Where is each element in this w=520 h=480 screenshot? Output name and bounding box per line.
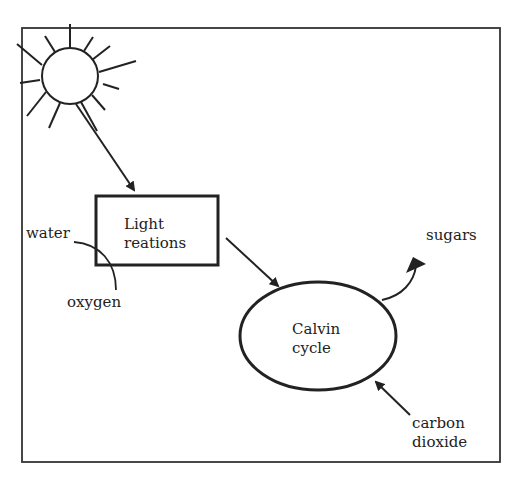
oxygen-label: oxygen bbox=[67, 293, 121, 312]
sun-icon bbox=[17, 24, 136, 131]
light-reactions-label-line1: Light bbox=[124, 215, 164, 234]
sugars-label: sugars bbox=[426, 226, 477, 245]
water-label: water bbox=[26, 224, 70, 243]
calvin-to-sugars-arrow bbox=[382, 266, 416, 300]
light-reactions-label-line2: reations bbox=[124, 234, 186, 253]
carbon-dioxide-label-line1: carbon bbox=[412, 414, 465, 433]
sun-to-light-arrow bbox=[76, 104, 134, 190]
co2-to-calvin-arrow bbox=[376, 382, 410, 415]
carbon-dioxide-label-line2: dioxide bbox=[412, 433, 467, 452]
frame-border bbox=[22, 28, 500, 462]
calvin-cycle-label-line1: Calvin bbox=[292, 320, 340, 339]
calvin-cycle-label-line2: cycle bbox=[292, 339, 331, 358]
light-to-calvin-arrow bbox=[226, 238, 278, 286]
